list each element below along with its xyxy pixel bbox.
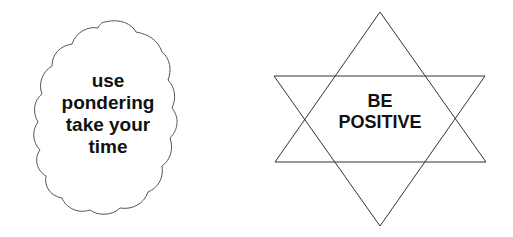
star-line-2: POSITIVE [320, 112, 440, 133]
cloud-line-4: time [52, 136, 164, 158]
cloud-label: use pondering take your time [52, 70, 164, 158]
cloud-line-2: pondering [52, 92, 164, 114]
star-up-triangle [275, 12, 486, 162]
cloud-line-1: use [52, 70, 164, 92]
cloud-line-3: take your [52, 114, 164, 136]
star-line-1: BE [320, 91, 440, 112]
star-label: BE POSITIVE [320, 91, 440, 133]
